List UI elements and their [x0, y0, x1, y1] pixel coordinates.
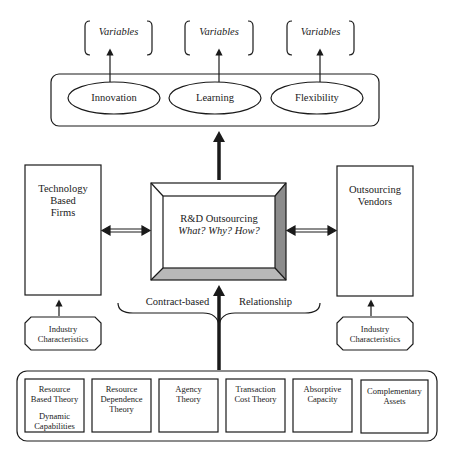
rd-outsourcing-subtitle: What? Why? How?	[163, 225, 275, 237]
label-line: Technology	[25, 183, 101, 195]
variables-label-2: Variables	[185, 26, 253, 38]
vendors-label: Outsourcing Vendors	[337, 184, 413, 208]
flexibility-label: Flexibility	[271, 92, 363, 104]
innovation-label: Innovation	[68, 92, 160, 104]
label-line: Characteristics	[25, 334, 101, 344]
theory-resource-dependence: Resource Dependence Theory	[92, 384, 151, 414]
technology-firms-label: Technology Based Firms	[25, 183, 101, 219]
theory-resource-based: Resource Based Theory Dynamic Capabiliti…	[25, 384, 84, 431]
label-line: Cost Theory	[226, 394, 285, 404]
label-line: Resource	[25, 384, 84, 394]
industry-label-right: Industry Characteristics	[337, 324, 413, 344]
label-line: Based Theory	[25, 394, 84, 404]
label-line: Outsourcing	[337, 184, 413, 196]
label-line: Firms	[25, 207, 101, 219]
label-line: Dependence	[92, 394, 151, 404]
label-line: Absorptive	[293, 384, 352, 394]
double-arrow-right	[287, 226, 336, 235]
label-line: Industry	[337, 324, 413, 334]
label-line: Dynamic	[25, 411, 84, 421]
label-line: Vendors	[337, 196, 413, 208]
label-line: Theory	[92, 404, 151, 414]
label-line: Industry	[25, 324, 101, 334]
rd-outsourcing-label: R&D Outsourcing What? Why? How?	[163, 213, 275, 237]
rd-outsourcing-title: R&D Outsourcing	[163, 213, 275, 225]
learning-label: Learning	[169, 92, 261, 104]
variables-label-1: Variables	[85, 26, 152, 38]
contract-based-label: Contract-based	[140, 296, 215, 308]
label-line: Characteristics	[337, 334, 413, 344]
industry-label-left: Industry Characteristics	[25, 324, 101, 344]
label-line: Agency	[159, 384, 218, 394]
label-line: Theory	[159, 394, 218, 404]
label-line: Resource	[92, 384, 151, 394]
label-line: Based	[25, 195, 101, 207]
double-arrow-left	[102, 226, 150, 235]
label-line: Complementary	[361, 386, 428, 396]
spacer	[25, 404, 84, 411]
label-line: Capacity	[293, 394, 352, 404]
relationship-label: Relationship	[228, 296, 303, 308]
label-line: Assets	[361, 396, 428, 406]
theory-absorptive-capacity: Absorptive Capacity	[293, 384, 352, 404]
label-line: Transaction	[226, 384, 285, 394]
theory-agency: Agency Theory	[159, 384, 218, 404]
theory-transaction-cost: Transaction Cost Theory	[226, 384, 285, 404]
theory-complementary-assets: Complementary Assets	[361, 386, 428, 406]
label-line: Capabilities	[25, 421, 84, 431]
variables-label-3: Variables	[287, 26, 354, 38]
